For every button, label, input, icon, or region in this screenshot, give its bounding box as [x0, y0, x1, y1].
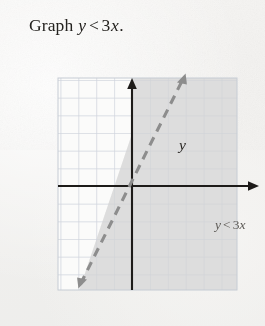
- prompt-lhs: y: [78, 15, 87, 35]
- problem-prompt: Graph y<3x.: [29, 13, 124, 37]
- graph-svg: [34, 54, 261, 314]
- region-label-variable: x: [239, 217, 245, 232]
- prompt-verb: Graph: [29, 15, 73, 35]
- coordinate-plane: y x y<3x: [58, 78, 237, 290]
- solution-region-shading: [58, 78, 237, 290]
- prompt-variable: x: [110, 15, 119, 35]
- region-inequality-label: y<3x: [215, 216, 245, 233]
- y-axis-label: y: [179, 137, 186, 153]
- prompt-period: .: [119, 15, 123, 35]
- region-label-relation: <: [221, 217, 233, 232]
- page-root: Graph y<3x.: [0, 0, 265, 326]
- prompt-relation: <: [87, 15, 102, 35]
